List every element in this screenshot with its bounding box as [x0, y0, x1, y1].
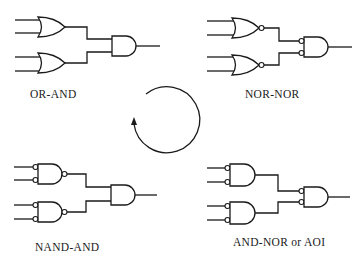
and-gate-inverted-inputs-icon	[230, 202, 255, 224]
panel-and-nor-aoi: AND-NOR or AOI	[207, 164, 350, 248]
cycle-arrow-icon	[131, 87, 200, 153]
panel-nand-and: NAND-AND	[14, 164, 157, 253]
nand-gate-icon	[38, 164, 62, 184]
panel-nor-nor: NOR-NOR	[207, 18, 352, 100]
or-gate-icon	[38, 53, 65, 73]
label-nor-nor: NOR-NOR	[245, 88, 300, 100]
nor-gate-icon	[232, 18, 259, 38]
panel-or-and: OR-AND	[15, 17, 160, 100]
label-and-nor-aoi: AND-NOR or AOI	[233, 236, 325, 248]
and-gate-inverted-inputs-icon	[304, 187, 328, 207]
or-gate-icon	[38, 17, 65, 37]
label-or-and: OR-AND	[30, 88, 77, 100]
and-gate-inverted-inputs-icon	[230, 164, 255, 186]
and-gate-inverted-inputs-icon	[304, 37, 328, 57]
nor-gate-icon	[232, 55, 259, 75]
and-gate-icon	[111, 185, 135, 205]
label-nand-and: NAND-AND	[35, 241, 99, 253]
nand-gate-icon	[38, 202, 62, 222]
and-gate-icon	[112, 36, 136, 56]
logic-diagram: OR-AND NOR-NOR	[0, 0, 363, 265]
